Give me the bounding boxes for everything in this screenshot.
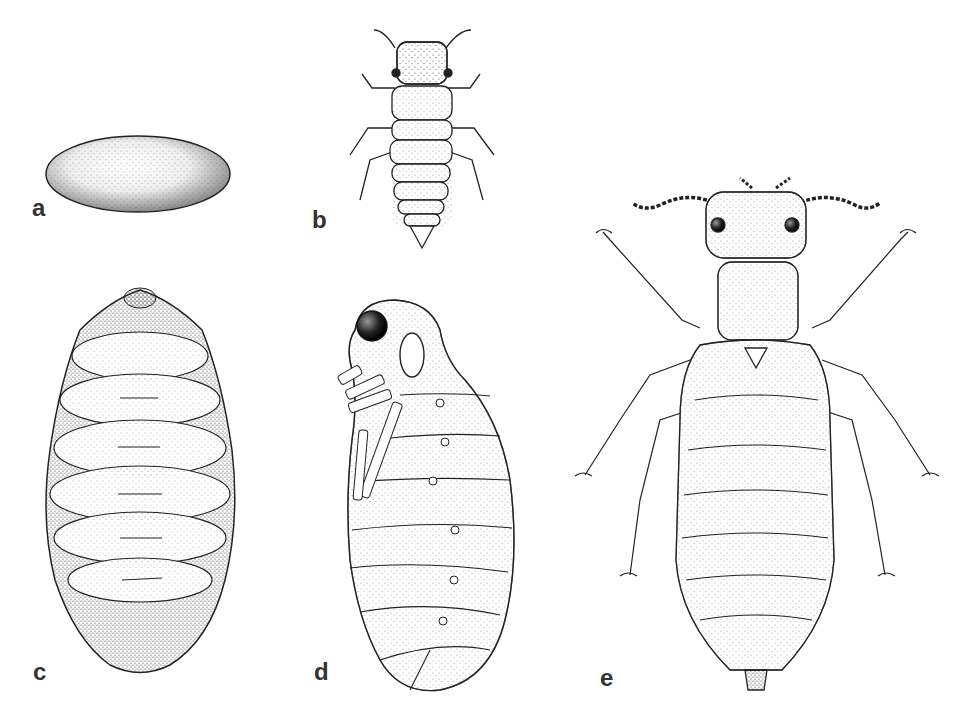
panel-d-pupa bbox=[337, 300, 514, 691]
panel-e-adult bbox=[575, 178, 939, 690]
panel-a-egg bbox=[46, 136, 230, 212]
panel-b-larva bbox=[350, 30, 494, 248]
illustration-canvas bbox=[0, 0, 972, 718]
panel-label-e: e bbox=[600, 666, 613, 690]
panel-label-b: b bbox=[312, 208, 327, 232]
panel-label-a: a bbox=[32, 196, 45, 220]
panel-label-d: d bbox=[314, 660, 329, 684]
panel-c-cocoon bbox=[46, 288, 235, 673]
panel-label-c: c bbox=[33, 660, 46, 684]
